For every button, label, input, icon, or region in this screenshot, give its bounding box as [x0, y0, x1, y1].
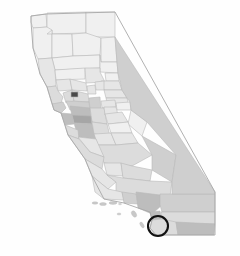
island-santa-catalina: [130, 210, 137, 218]
county-yuba[interactable]: [95, 81, 104, 90]
island-santa-rosa: [100, 203, 107, 206]
island-anacapa: [118, 203, 121, 205]
county-mariposa[interactable]: [108, 122, 132, 133]
county-modoc[interactable]: [86, 12, 115, 37]
county-los-angeles[interactable]: [136, 192, 162, 214]
county-lassen[interactable]: [101, 37, 117, 62]
county-san-bernardino[interactable]: [160, 194, 215, 212]
map-figure: California counties choropleth: [0, 0, 240, 256]
county-glenn[interactable]: [55, 68, 85, 80]
county-alameda[interactable]: [72, 115, 92, 124]
county-lake[interactable]: [56, 79, 72, 91]
channel-islands-group: [92, 202, 145, 229]
county-group-north[interactable]: [31, 12, 122, 90]
county-marin[interactable]: [52, 102, 66, 113]
county-imperial[interactable]: [176, 222, 215, 235]
island-san-miguel: [92, 202, 98, 204]
county-alpine[interactable]: [116, 102, 131, 110]
county-mendocino[interactable]: [38, 58, 56, 87]
county-ventura[interactable]: [122, 192, 138, 204]
county-siskiyou[interactable]: [47, 12, 86, 34]
county-san-francisco[interactable]: [71, 92, 78, 97]
county-shasta[interactable]: [72, 33, 101, 56]
county-kings[interactable]: [104, 163, 123, 176]
california-county-map[interactable]: [0, 0, 240, 256]
island-san-nicolas: [117, 213, 121, 215]
county-fresno[interactable]: [98, 143, 152, 166]
county-sutter[interactable]: [87, 85, 96, 94]
county-contra-costa[interactable]: [70, 106, 91, 116]
county-sierra[interactable]: [105, 73, 119, 81]
island-san-clemente: [139, 221, 145, 228]
island-santa-cruz-island: [109, 202, 117, 205]
county-colusa[interactable]: [70, 79, 87, 91]
county-humboldt[interactable]: [33, 27, 52, 59]
